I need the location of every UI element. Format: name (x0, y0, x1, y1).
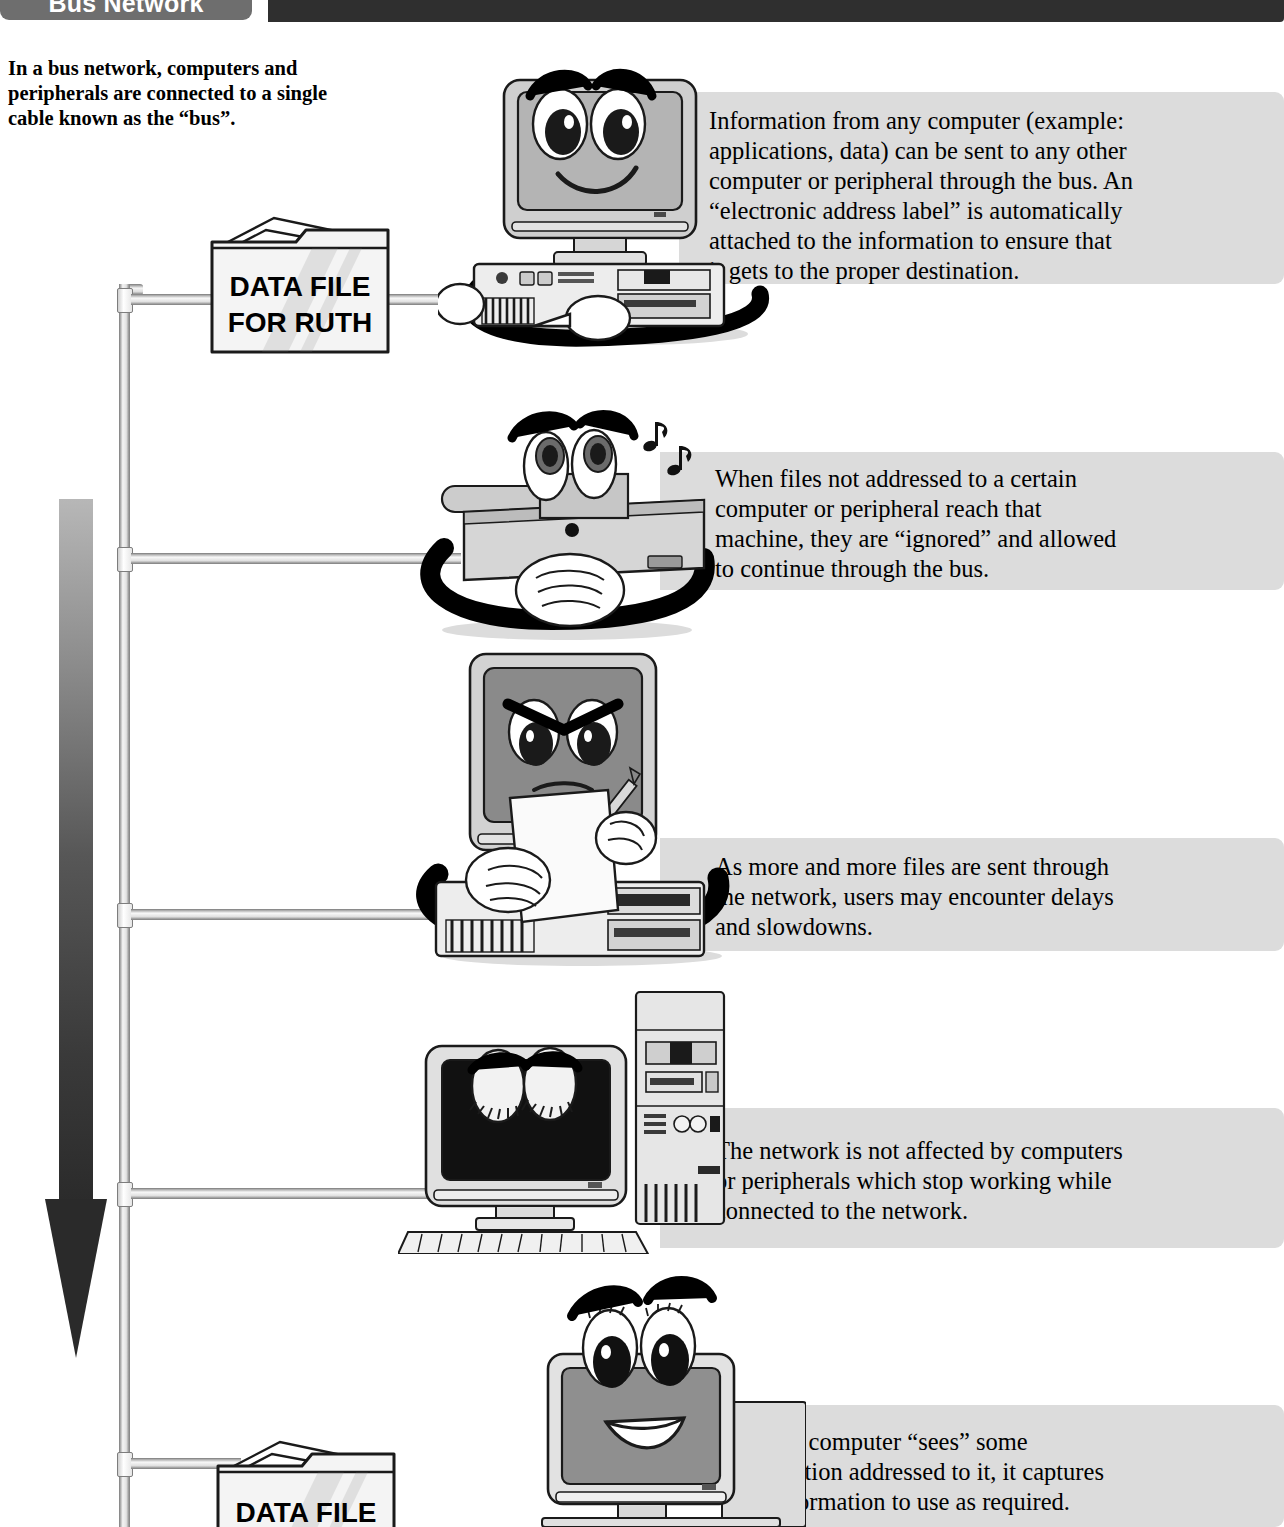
info-panel-text: Information from any computer (example: … (709, 106, 1269, 286)
info-panel-text: As more and more files are sent through … (715, 852, 1275, 942)
happy-computer-receiving-illustration (506, 1272, 806, 1527)
bus-network-diagram: Bus Network In a bus network, computers … (0, 0, 1284, 1527)
info-panel-text: The network is not affected by computers… (715, 1136, 1275, 1226)
info-panel: When a computer “sees” some information … (727, 1405, 1284, 1527)
smiling-computer-pointing-illustration (438, 62, 783, 347)
folder-label-line1: DATA FILE (229, 271, 370, 302)
frowning-computer-reading-paper-illustration (412, 648, 732, 968)
data-file-folder: DATA FILE FOR RUTH (200, 216, 400, 360)
info-panel-text: When files not addressed to a certain co… (715, 464, 1275, 584)
folder-label-line2: FOR RUTH (228, 307, 373, 338)
data-file-folder: DATA FILE (206, 1440, 406, 1527)
header-bar-dark (268, 0, 1284, 22)
intro-paragraph: In a bus network, computers and peripher… (8, 56, 338, 131)
info-panel: As more and more files are sent through … (660, 838, 1284, 951)
info-panel-text: When a computer “sees” some information … (727, 1427, 1272, 1517)
sleeping-computer-with-tower-illustration (398, 988, 728, 1254)
header-tab: Bus Network (0, 0, 252, 20)
page-title: Bus Network (0, 0, 252, 18)
info-panel: When files not addressed to a certain co… (660, 452, 1284, 590)
printer-whistling-ignoring-illustration (412, 408, 722, 640)
page-header: Bus Network (0, 0, 1284, 28)
flow-direction-arrow-icon (45, 499, 107, 1358)
folder-label-line1: DATA FILE (235, 1497, 376, 1527)
info-panel: The network is not affected by computers… (660, 1108, 1284, 1248)
